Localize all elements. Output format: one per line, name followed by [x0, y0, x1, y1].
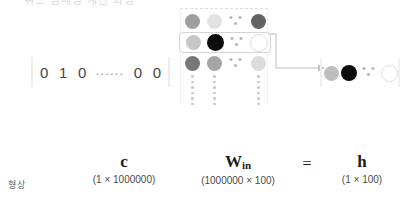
input-vector-c: 0 1 0 ...... 0 0 — [31, 57, 170, 87]
vector-cell: 0 — [128, 64, 147, 81]
matrix-node-cell — [181, 14, 203, 29]
label-dim-c: (1 × 1000000) — [68, 172, 180, 187]
vector-cell: 0 — [35, 64, 54, 81]
matrix-row-ellipsis: • • • — [226, 35, 248, 51]
label-vector-h: h (1 × 100) — [320, 152, 404, 187]
label-symbol-c: c — [68, 152, 180, 172]
matrix-node-cell — [204, 34, 226, 51]
matrix-node — [185, 14, 200, 29]
output-node — [381, 65, 398, 82]
matrix-row-ellipsis: • • • — [225, 14, 247, 30]
matrix-node — [250, 34, 268, 52]
label-symbol-h: h — [320, 152, 404, 172]
label-symbol-win: Win — [178, 152, 298, 173]
matrix-node-cell — [181, 56, 203, 71]
matrix-node-cell — [247, 56, 269, 71]
vector-cell: 1 — [54, 64, 73, 81]
output-node-cell — [340, 65, 358, 81]
matrix-row-ellipsis: • • • — [225, 56, 247, 72]
matrix-node — [251, 14, 266, 29]
matrix-node — [186, 35, 201, 50]
label-symbol-win-base: W — [225, 152, 242, 171]
matrix-node-cell — [248, 34, 270, 52]
matrix-row: • • • — [181, 12, 269, 31]
matrix-column-vertical-dots — [213, 75, 216, 105]
label-dim-h: (1 × 100) — [320, 172, 404, 187]
shape-row-label: 형상 — [8, 178, 25, 191]
matrix-node-cell — [203, 56, 225, 71]
weight-matrix-win: • • • • • • • • • — [180, 8, 268, 104]
label-vector-c: c (1 × 1000000) — [68, 152, 180, 187]
matrix-node — [207, 34, 224, 51]
label-symbol-win-subscript: in — [242, 159, 251, 171]
output-vector-ellipsis: • • • — [358, 65, 380, 81]
matrix-node-cell — [203, 14, 225, 29]
clipped-header-text: 워드 임베딩 계산 과정 — [24, 0, 135, 7]
label-matrix-win: Win (1000000 × 100) — [178, 152, 298, 188]
matrix-node — [207, 56, 222, 71]
label-dim-win: (1000000 × 100) — [178, 173, 298, 188]
clipped-header-strip: 워드 임베딩 계산 과정 — [0, 0, 412, 7]
label-row: 형상 c (1 × 1000000) Win (1000000 × 100) =… — [0, 152, 412, 200]
output-node — [324, 66, 339, 81]
matrix-row-highlighted[interactable]: • • • — [179, 32, 271, 53]
matrix-node — [207, 14, 222, 29]
output-node — [341, 65, 357, 81]
matrix-node-cell — [182, 35, 204, 50]
matrix-node — [185, 56, 200, 71]
matrix-column-vertical-dots — [191, 75, 194, 105]
vector-cell: 0 — [73, 64, 92, 81]
vector-cell: 0 — [147, 64, 166, 81]
vector-ellipsis: ...... — [92, 63, 129, 81]
output-vector-h: • • • — [320, 59, 400, 87]
label-equals: = — [290, 154, 324, 174]
matrix-column-vertical-dots — [257, 75, 260, 105]
output-node-cell — [322, 66, 340, 81]
output-node-cell — [380, 65, 398, 82]
matrix-row: • • • — [181, 54, 269, 73]
label-symbol-equals: = — [290, 154, 324, 174]
matrix-node — [251, 56, 266, 71]
matrix-node-cell — [247, 14, 269, 29]
